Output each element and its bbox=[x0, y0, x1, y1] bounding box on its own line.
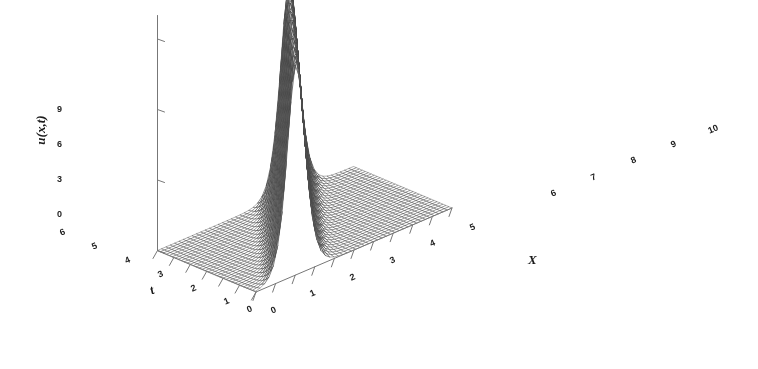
x-axis-label: X bbox=[528, 252, 537, 268]
z-tick-label: 9 bbox=[57, 104, 62, 114]
z-axis-label: u(x,t) bbox=[33, 115, 49, 144]
surface-mesh-canvas bbox=[0, 0, 758, 369]
z-tick-label: 3 bbox=[57, 174, 62, 184]
z-tick-label: 0 bbox=[57, 209, 62, 219]
surface-plot-figure: u(x,t) X t 9 6 3 0 6 5 4 3 2 1 0 0 1 2 3… bbox=[0, 0, 758, 369]
z-tick-label: 6 bbox=[57, 139, 62, 149]
